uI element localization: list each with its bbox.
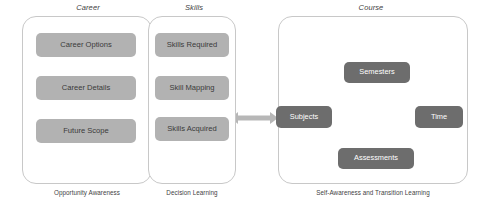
node-career-details[interactable]: Career Details bbox=[36, 76, 136, 100]
panel-title-career: Career bbox=[28, 3, 148, 12]
node-future-scope[interactable]: Future Scope bbox=[36, 119, 136, 143]
panel-title-course: Course bbox=[276, 3, 466, 12]
node-skills-acquired[interactable]: Skills Acquired bbox=[155, 117, 229, 141]
node-career-options[interactable]: Career Options bbox=[36, 33, 136, 57]
node-subjects[interactable]: Subjects bbox=[276, 106, 332, 128]
panel-caption-course: Self-Awareness and Transition Learning bbox=[278, 189, 468, 196]
node-study-plan[interactable]: Study Plan bbox=[362, 94, 398, 116]
panel-caption-career: Opportunity Awareness bbox=[22, 189, 152, 196]
node-skill-mapping[interactable]: Skill Mapping bbox=[155, 76, 229, 100]
node-assessments[interactable]: Assessments bbox=[338, 148, 414, 169]
diagram-canvas: Career Career Options Career Details Fut… bbox=[0, 0, 481, 209]
node-semesters[interactable]: Semesters bbox=[344, 62, 410, 83]
panel-caption-skills: Decision Learning bbox=[144, 189, 240, 196]
node-skills-required[interactable]: Skills Required bbox=[155, 33, 229, 57]
panel-title-skills: Skills bbox=[146, 3, 242, 12]
connector-skills-acquired-to-subjects bbox=[231, 112, 278, 124]
node-time[interactable]: Time bbox=[415, 106, 463, 128]
